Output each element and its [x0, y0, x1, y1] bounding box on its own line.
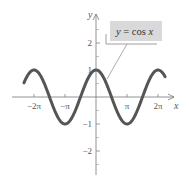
x-axis-label: x: [173, 100, 179, 111]
legend-callout: y = cos x: [106, 21, 162, 79]
legend-label: y = cos x: [115, 26, 153, 37]
y-axis-label: y: [87, 9, 93, 20]
y-tick-label: −2: [82, 146, 92, 156]
x-tick-label: −2π: [27, 101, 42, 111]
leader-line: [107, 44, 127, 79]
y-tick-label: 2: [88, 38, 93, 48]
x-tick-label: −π: [60, 101, 70, 111]
x-tick-label: 2π: [153, 101, 163, 111]
x-tick-label: π: [125, 101, 130, 111]
cosine-chart: −2π−ππ2π21−1−2 y = cos x x y: [0, 0, 189, 192]
y-tick-label: −1: [82, 119, 92, 129]
